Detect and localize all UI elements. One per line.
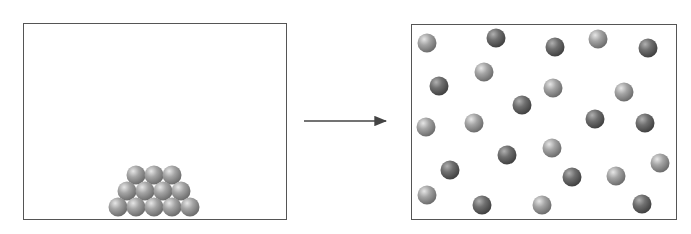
particle [636,114,655,133]
particle [544,79,563,98]
particle [473,196,492,215]
particle [418,186,437,205]
particle [546,38,565,57]
particle [154,182,173,201]
particle [127,166,146,185]
particle [430,77,449,96]
particle [633,195,652,214]
particle [475,63,494,82]
diagram-canvas [0,0,691,234]
particle [136,182,155,201]
particle [639,39,658,58]
particle [109,198,128,217]
particle [533,196,552,215]
particle [607,167,626,186]
particle [118,182,137,201]
particle [163,166,182,185]
particle [487,29,506,48]
particle [145,166,164,185]
particle [441,161,460,180]
particle [145,198,164,217]
particle [589,30,608,49]
particle [513,96,532,115]
particle [418,34,437,53]
particle [563,168,582,187]
particle [586,110,605,129]
particle [498,146,517,165]
particle [127,198,146,217]
particle [465,114,484,133]
particle [181,198,200,217]
particle [615,83,634,102]
compact-particles [109,166,200,217]
particle [543,139,562,158]
particle [172,182,191,201]
dispersed-particles [417,29,670,215]
particle [163,198,182,217]
particle [651,154,670,173]
particle [417,118,436,137]
